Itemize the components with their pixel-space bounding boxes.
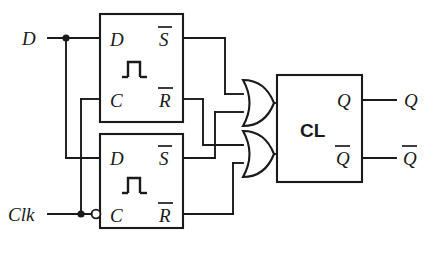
- output-label-q: Q: [404, 90, 418, 111]
- flipflop-top-c-pin-label: C: [110, 90, 123, 111]
- flipflop-bottom-d-pin-label: D: [109, 148, 124, 169]
- flipflop-top-rbar-pin-label: R: [158, 90, 171, 111]
- flipflop-bottom-c-pin-label: C: [110, 205, 123, 226]
- flipflop-top-sbar-pin-label: S: [159, 29, 169, 50]
- schematic-canvas: D C S R D C S R CL Q Q: [0, 0, 436, 257]
- input-label-d: D: [21, 28, 36, 49]
- cl-block: CL Q Q: [277, 75, 362, 182]
- flipflop-bottom-rbar-pin-label: R: [158, 205, 171, 226]
- junction-dot-clk: [77, 210, 84, 217]
- flipflop-top: D C S R: [100, 14, 183, 122]
- flipflop-top-d-pin-label: D: [109, 29, 124, 50]
- clock-inversion-bubble-icon: [92, 210, 101, 219]
- junction-dot-d: [62, 34, 69, 41]
- cl-block-label: CL: [300, 120, 326, 141]
- logic-diagram: D C S R D C S R CL Q Q: [0, 0, 436, 257]
- cl-block-q-pin-label: Q: [337, 90, 351, 111]
- flipflop-bottom: D C S R: [92, 134, 183, 228]
- output-label-qbar: Q: [403, 148, 417, 169]
- input-label-clk: Clk: [8, 204, 35, 225]
- cl-block-qbar-pin-label: Q: [336, 148, 350, 169]
- flipflop-bottom-sbar-pin-label: S: [159, 148, 169, 169]
